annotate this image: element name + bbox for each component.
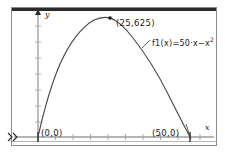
x-axis-label: x — [205, 123, 210, 132]
vertex-point-label: (25,625) — [116, 18, 155, 28]
y-axis-label: y — [45, 10, 50, 19]
right-root-point-label: (50,0) — [152, 128, 179, 138]
plot-canvas — [0, 0, 225, 153]
function-equation-label: f1(x)=50·x−x2 — [152, 36, 214, 48]
y-axis-arrowhead — [35, 9, 41, 15]
function-equation-body: f1(x)=50·x−x — [152, 39, 210, 48]
graph-screenshot: y x (25,625) (0,0) (50,0) f1(x)=50·x−x2 — [0, 0, 225, 153]
function-equation-exponent: 2 — [210, 36, 214, 43]
equation-label-leader — [142, 40, 150, 48]
origin-point-label: (0,0) — [41, 128, 63, 138]
